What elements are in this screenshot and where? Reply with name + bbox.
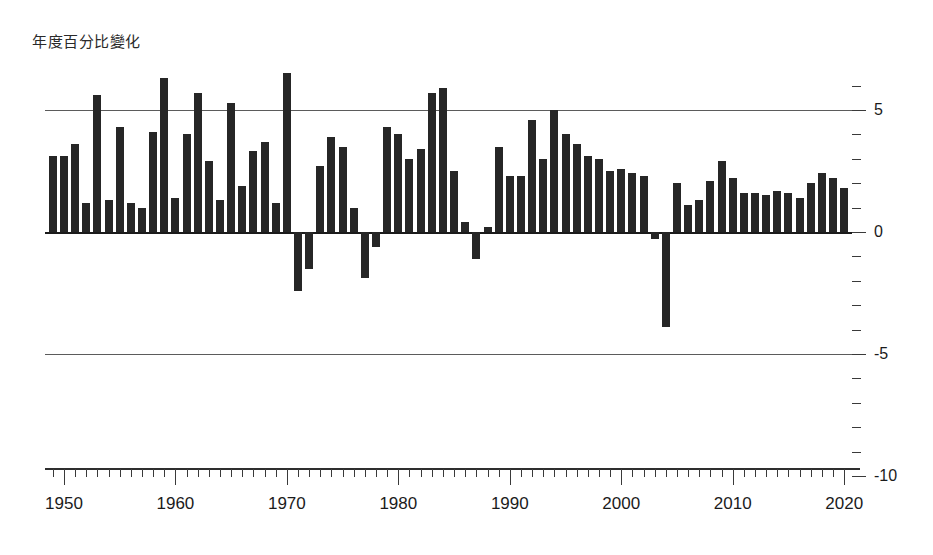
bar [562,134,570,232]
x-tick [187,469,188,477]
bar [595,159,603,232]
plot-area [45,60,852,480]
x-tick [577,469,578,477]
x-tick [666,469,667,477]
bar [194,93,202,232]
bar [784,193,792,232]
bar [372,232,380,247]
y-tick [852,281,861,282]
annual-percent-change-chart: 年度百分比變化 50-5-10 195019601970198019902000… [0,0,933,555]
bar [461,222,469,232]
x-tick [677,469,678,477]
x-tick [131,469,132,477]
bar [472,232,480,259]
bar [339,147,347,232]
x-tick [800,469,801,477]
x-axis-label: 1980 [379,494,417,514]
x-tick [153,469,154,477]
x-tick [599,469,600,477]
bar [695,200,703,232]
x-tick [365,469,366,477]
y-tick [852,134,861,135]
bar [205,161,213,232]
x-tick [566,469,567,477]
bar [706,181,714,232]
bar [673,183,681,232]
bar [350,208,358,232]
x-tick [488,469,489,477]
x-tick [409,469,410,477]
x-axis [45,468,860,490]
bar [316,166,324,232]
x-tick [811,469,812,477]
x-tick [543,469,544,477]
x-tick [554,469,555,477]
bar [807,183,815,232]
bar [684,205,692,232]
bar [183,134,191,232]
x-tick [777,469,778,477]
bar [829,178,837,232]
y-axis-label: -10 [874,467,897,485]
x-tick [699,469,700,477]
bar [93,95,101,232]
x-tick [532,469,533,477]
x-tick [309,469,310,477]
bar [528,120,536,232]
bar [238,186,246,232]
x-tick [343,469,344,477]
x-tick [844,469,845,485]
y-tick [852,159,861,160]
bar [640,176,648,232]
x-axis-label: 1950 [45,494,83,514]
x-tick [287,469,288,485]
x-tick [632,469,633,477]
bar [60,156,68,232]
x-tick [86,469,87,477]
y-tick [852,208,861,209]
bar [105,200,113,232]
x-axis-label: 2010 [714,494,752,514]
bar [394,134,402,232]
x-tick [109,469,110,477]
x-tick [376,469,377,477]
bar [138,208,146,232]
x-tick [253,469,254,477]
bar [417,149,425,232]
x-tick [733,469,734,485]
x-tick [499,469,500,477]
bar [740,193,748,232]
bar [227,103,235,232]
y-tick [852,110,866,111]
bar [484,227,492,232]
x-axis-label: 1960 [156,494,194,514]
bar [261,142,269,232]
bar-series [45,60,852,480]
bar [729,178,737,232]
bar [405,159,413,232]
bar [450,171,458,232]
x-tick [398,469,399,485]
bar [294,232,302,291]
bar [383,127,391,232]
bar [327,137,335,232]
x-tick [231,469,232,477]
x-axis-label: 2020 [825,494,863,514]
y-tick [852,183,861,184]
x-tick [387,469,388,477]
y-axis-label: 5 [874,101,883,119]
bar [439,88,447,232]
x-axis-label: 1990 [491,494,529,514]
x-tick [175,469,176,485]
bar [718,161,726,232]
bar [495,147,503,232]
bar [149,132,157,232]
x-tick [53,469,54,477]
bar [617,169,625,232]
y-axis: 50-5-10 [852,60,933,480]
bar [762,195,770,232]
y-axis-label: 0 [874,223,883,241]
x-axis-label: 1970 [268,494,306,514]
x-tick [510,469,511,485]
bar [216,200,224,232]
